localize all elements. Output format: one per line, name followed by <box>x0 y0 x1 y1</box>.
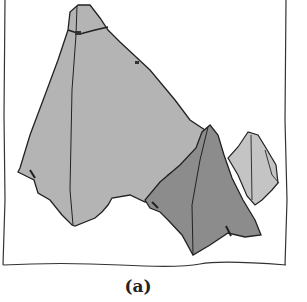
figure-caption: (a) <box>0 276 276 296</box>
figure-illustration <box>0 0 307 302</box>
